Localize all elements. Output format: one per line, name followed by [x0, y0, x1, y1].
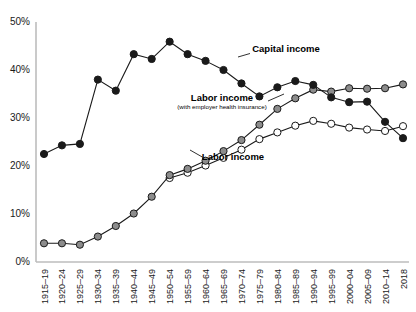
- x-axis-tick-label: 1960–64: [201, 269, 211, 304]
- data-point-1[interactable]: [166, 172, 173, 179]
- data-point-0[interactable]: [76, 140, 83, 147]
- data-point-0[interactable]: [292, 77, 299, 84]
- data-point-0[interactable]: [202, 57, 209, 64]
- data-point-2[interactable]: [274, 129, 281, 136]
- x-axis-tick-label: 1915–19: [40, 269, 50, 304]
- annotations-group: Capital incomeLabor income(with employer…: [177, 43, 320, 162]
- data-point-0[interactable]: [328, 94, 335, 101]
- data-point-0[interactable]: [220, 66, 227, 73]
- data-point-0[interactable]: [40, 150, 47, 157]
- x-axis-tick-label: 1980–84: [273, 269, 283, 304]
- x-axis-tick-label: 2005–09: [363, 269, 373, 304]
- x-axis-tick-label: 1920–24: [57, 269, 67, 304]
- data-point-0[interactable]: [381, 118, 388, 125]
- data-point-0[interactable]: [346, 99, 353, 106]
- x-axis-tick-label: 1945–49: [147, 269, 157, 304]
- data-point-1[interactable]: [399, 81, 406, 88]
- data-point-1[interactable]: [256, 121, 263, 128]
- chart-container: 0%10%20%30%40%50% 1915–191920–241925–291…: [0, 0, 416, 312]
- x-axis-tick-label: 1930–34: [93, 269, 103, 304]
- data-point-0[interactable]: [256, 93, 263, 100]
- data-point-1[interactable]: [346, 85, 353, 92]
- data-point-1[interactable]: [364, 85, 371, 92]
- data-point-2[interactable]: [399, 123, 406, 130]
- x-axis-tick-label: 1975–79: [255, 269, 265, 304]
- y-axis-tick-label: 0%: [16, 256, 31, 267]
- data-point-2[interactable]: [364, 126, 371, 133]
- y-axis-tick-label: 10%: [10, 208, 30, 219]
- y-axis-tick-label: 20%: [10, 160, 30, 171]
- x-axis: 1915–191920–241925–291930–341935–391940–…: [36, 262, 409, 304]
- x-axis-tick-label: 1955–59: [183, 269, 193, 304]
- data-point-1[interactable]: [130, 210, 137, 217]
- x-axis-tick-label: 1995–99: [327, 269, 337, 304]
- data-point-0[interactable]: [58, 142, 65, 149]
- y-axis: 0%10%20%30%40%50%: [10, 16, 36, 267]
- data-point-1[interactable]: [148, 193, 155, 200]
- annotation-leader-line: [238, 54, 250, 58]
- x-axis-tick-label: 1935–39: [111, 269, 121, 304]
- x-axis-tick-label: 2000–04: [345, 269, 355, 304]
- data-point-1[interactable]: [94, 233, 101, 240]
- data-point-0[interactable]: [184, 51, 191, 58]
- data-point-0[interactable]: [166, 38, 173, 45]
- data-point-1[interactable]: [112, 222, 119, 229]
- x-axis-tick-label: 2010–14: [381, 269, 391, 304]
- data-point-0[interactable]: [130, 51, 137, 58]
- data-point-2[interactable]: [292, 122, 299, 129]
- x-axis-tick-label: 1965–69: [219, 269, 229, 304]
- y-axis-tick-label: 30%: [10, 112, 30, 123]
- data-series-group: [40, 38, 406, 248]
- x-axis-tick-label: 1990–94: [309, 269, 319, 304]
- data-point-0[interactable]: [148, 55, 155, 62]
- x-axis-tick-label: 1940–44: [129, 269, 139, 304]
- series-annotation-sublabel: (with employer health insurance): [177, 103, 266, 110]
- data-point-1[interactable]: [58, 240, 65, 247]
- y-axis-tick-label: 40%: [10, 64, 30, 75]
- x-axis-tick-label: 2018: [399, 269, 409, 289]
- annotation-leader-line: [268, 94, 284, 101]
- data-point-0[interactable]: [94, 76, 101, 83]
- x-axis-tick-label: 1970–74: [237, 269, 247, 304]
- data-point-2[interactable]: [346, 124, 353, 131]
- series-annotation-label: Labor income: [191, 92, 253, 103]
- data-point-2[interactable]: [381, 127, 388, 134]
- x-axis-tick-label: 1985–89: [291, 269, 301, 304]
- data-point-1[interactable]: [381, 85, 388, 92]
- data-point-1[interactable]: [76, 241, 83, 248]
- series-annotation-label: Capital income: [252, 43, 320, 54]
- data-point-2[interactable]: [256, 136, 263, 143]
- x-axis-tick-label: 1925–29: [75, 269, 85, 304]
- data-point-2[interactable]: [328, 120, 335, 127]
- data-point-0[interactable]: [310, 81, 317, 88]
- data-point-0[interactable]: [399, 135, 406, 142]
- data-point-0[interactable]: [238, 80, 245, 87]
- data-point-0[interactable]: [112, 87, 119, 94]
- x-axis-tick-label: 1950–54: [165, 269, 175, 304]
- data-point-2[interactable]: [310, 117, 317, 124]
- series-annotation-label: Labor income: [202, 151, 264, 162]
- data-point-0[interactable]: [364, 98, 371, 105]
- data-point-1[interactable]: [238, 136, 245, 143]
- data-point-1[interactable]: [274, 105, 281, 112]
- data-point-0[interactable]: [274, 84, 281, 91]
- line-chart-svg: 0%10%20%30%40%50% 1915–191920–241925–291…: [0, 0, 416, 312]
- data-point-1[interactable]: [292, 95, 299, 102]
- data-point-1[interactable]: [40, 240, 47, 247]
- y-axis-tick-label: 50%: [10, 16, 30, 27]
- data-point-1[interactable]: [184, 165, 191, 172]
